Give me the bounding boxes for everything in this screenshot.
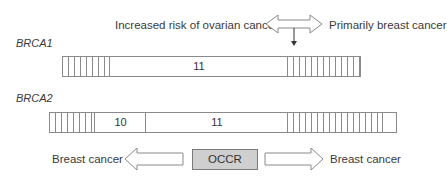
gene-diagram-brca2: 10 11 xyxy=(49,112,397,133)
double-arrow-icon xyxy=(264,14,326,48)
breast-cancer-right-label: Breast cancer xyxy=(330,153,401,165)
occr-region: OCCR xyxy=(192,149,258,170)
breast-cancer-primary-label: Primarily breast cancer xyxy=(329,19,447,31)
exon-11-label-brca2: 11 xyxy=(146,113,288,132)
exon-11-label-brca1: 11 xyxy=(110,57,288,76)
exons-right-brca1 xyxy=(288,57,360,76)
left-arrow-icon xyxy=(124,147,186,173)
gene-label-brca1: BRCA1 xyxy=(16,37,53,49)
ovarian-risk-label: Increased risk of ovarian cancer xyxy=(115,19,278,31)
breast-cancer-left-label: Breast cancer xyxy=(52,153,123,165)
exons-left-brca1 xyxy=(63,57,110,76)
exon-10-label-brca2: 10 xyxy=(95,113,146,132)
right-arrow-icon xyxy=(264,147,326,173)
exons-left-brca2 xyxy=(50,113,95,132)
gene-diagram-brca1: 11 xyxy=(62,56,361,77)
gene-label-brca2: BRCA2 xyxy=(16,92,53,104)
exons-right-brca2 xyxy=(288,113,383,132)
